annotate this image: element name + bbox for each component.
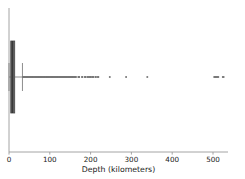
outlier-point <box>82 76 84 78</box>
x-axis-title: Depth (kilometers) <box>82 165 155 174</box>
outlier-point <box>87 76 89 78</box>
outlier-point <box>217 76 219 78</box>
x-tick-label-300: 300 <box>125 155 139 164</box>
outlier-point <box>109 76 111 78</box>
x-tick-label-500: 500 <box>206 155 220 164</box>
x-tick-label-0: 0 <box>7 155 12 164</box>
x-tick-label-100: 100 <box>43 155 57 164</box>
outlier-point <box>78 76 80 78</box>
x-tick-label-200: 200 <box>84 155 98 164</box>
outlier-point <box>98 76 100 78</box>
boxplot-figure: 0100200300400500Depth (kilometers) Depth… <box>0 0 245 179</box>
boxplot-canvas: 0100200300400500Depth (kilometers) <box>0 0 245 179</box>
outlier-point <box>75 76 77 78</box>
box-iqr <box>11 41 15 113</box>
outlier-point <box>95 76 97 78</box>
outlier-point <box>223 76 225 78</box>
outlier-point <box>125 76 127 78</box>
x-tick-label-400: 400 <box>165 155 179 164</box>
outlier-point <box>146 76 148 78</box>
outlier-point <box>85 76 87 78</box>
outlier-point <box>90 76 92 78</box>
outlier-group <box>22 76 224 78</box>
outlier-point <box>93 76 95 78</box>
